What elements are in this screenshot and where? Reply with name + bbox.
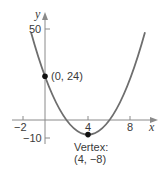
tick-label-neg2: −2 [14, 121, 27, 133]
y-axis-arrow-icon [42, 12, 48, 20]
tick-label-4: 4 [85, 121, 91, 133]
vertex-coords-label: (4, −8) [74, 153, 106, 165]
x-axis-label: x [148, 120, 155, 134]
tick-label-50: 50 [29, 23, 41, 35]
tick-label-8: 8 [127, 121, 133, 133]
tick-label-neg10: −10 [23, 132, 42, 144]
y-intercept-label: (0, 24) [51, 70, 83, 82]
vertex-title-label: Vertex: [74, 141, 108, 153]
y-axis-label: y [34, 7, 41, 21]
parabola-chart: y x 50 −10 −2 4 8 (0, 24) Vertex: (4, −8… [0, 0, 167, 171]
y-intercept-point [42, 74, 48, 80]
